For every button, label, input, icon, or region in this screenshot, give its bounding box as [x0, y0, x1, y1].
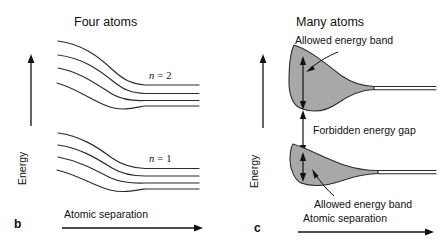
- panel-c-upper-allowed-band: [289, 45, 436, 111]
- panel-b-level-n1-curves: [57, 133, 199, 192]
- panel-c-letter: c: [254, 221, 261, 235]
- panel-b-title: Four atoms: [74, 15, 137, 29]
- panel-b-energy-axis: [28, 54, 35, 126]
- upper-band-label: Allowed energy band: [295, 34, 393, 46]
- lower-band-label: Allowed energy band: [314, 198, 412, 210]
- panel-c-lower-allowed-band: [290, 144, 436, 185]
- panel-b-level-n1-label: n=1: [149, 153, 171, 164]
- panel-c-separation-axis: [298, 229, 434, 236]
- forbidden-gap-label: Forbidden energy gap: [313, 124, 416, 136]
- panel-c-separation-label: Atomic separation: [303, 212, 387, 224]
- panel-c-energy-label: Energy: [248, 154, 260, 188]
- panel-c: Many atoms Energy Allowed en: [248, 15, 436, 235]
- panel-c-title: Many atoms: [296, 15, 364, 29]
- panel-b-level-n2-curves: [57, 41, 199, 109]
- panel-b-level-n2-label: n=2: [149, 70, 171, 81]
- panel-b-letter: b: [14, 217, 21, 231]
- panel-b-energy-label: Energy: [16, 151, 28, 185]
- panel-b-separation-axis: [62, 225, 203, 232]
- panel-c-energy-axis: [260, 54, 267, 128]
- panel-b: Four atoms Energy n=2 n=1: [14, 15, 203, 231]
- panel-b-separation-label: Atomic separation: [64, 208, 148, 220]
- energy-band-figure: Four atoms Energy n=2 n=1: [0, 0, 445, 245]
